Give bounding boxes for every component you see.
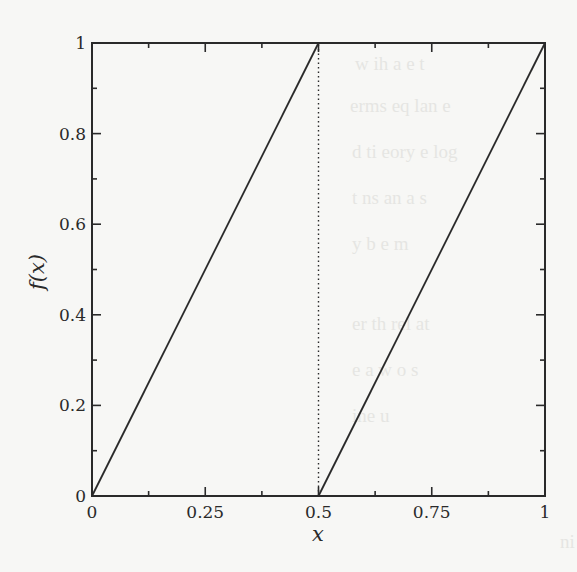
x-axis-tick-labels: 00.250.50.751 <box>87 502 551 522</box>
y-tick-label: 0.6 <box>59 214 86 234</box>
y-tick-label: 0 <box>75 486 86 506</box>
y-axis-tick-labels: 00.20.40.60.81 <box>59 33 86 506</box>
svg-text:y b e m: y b e m <box>352 233 409 254</box>
x-tick-label: 0 <box>87 502 98 522</box>
x-tick-label: 0.5 <box>305 502 332 522</box>
x-axis-label: x <box>312 522 324 546</box>
svg-text:ine u: ine u <box>352 405 390 426</box>
x-tick-label: 1 <box>540 502 551 522</box>
y-tick-label: 0.8 <box>59 124 86 144</box>
svg-text:erms eq lan e: erms eq lan e <box>350 95 451 116</box>
x-tick-label: 0.75 <box>413 502 451 522</box>
svg-text:t ns an a s: t ns an a s <box>352 187 427 208</box>
chart: w ih a e t erms eq lan e d ti eory e log… <box>0 0 577 572</box>
svg-text:ni: ni <box>560 531 575 552</box>
svg-text:w ih a e t: w ih a e t <box>355 53 425 74</box>
x-tick-label: 0.25 <box>186 502 224 522</box>
y-axis-label: f(x) <box>25 254 49 292</box>
series-line <box>92 43 319 496</box>
svg-text:d ti eory e log: d ti eory e log <box>352 141 458 162</box>
svg-text:er th rel at: er th rel at <box>352 313 430 334</box>
background-show-through: w ih a e t erms eq lan e d ti eory e log… <box>350 53 575 552</box>
y-tick-label: 0.2 <box>59 395 86 415</box>
y-tick-label: 0.4 <box>59 305 86 325</box>
y-tick-label: 1 <box>75 33 86 53</box>
